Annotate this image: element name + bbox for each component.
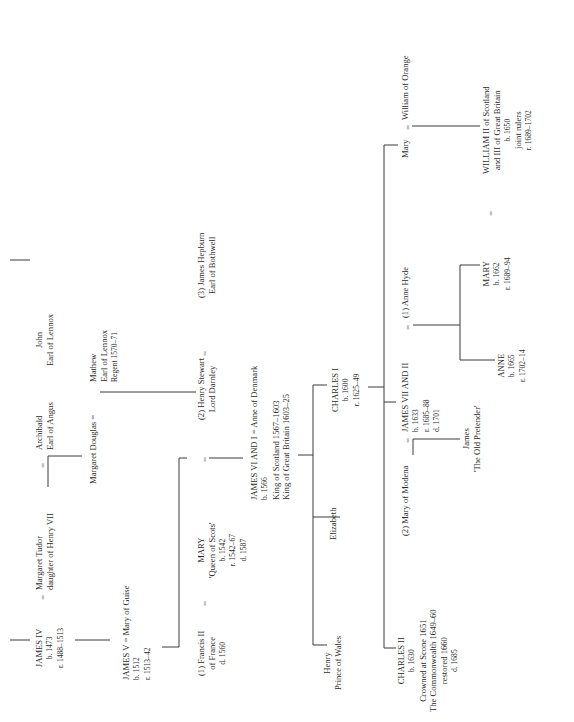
person-mary-princess: Mary <box>400 139 411 158</box>
title: Earl of Bothwell <box>207 233 218 298</box>
name: Elizabeth <box>328 508 339 540</box>
marriage-symbol: = <box>403 438 413 443</box>
person-elizabeth: Elizabeth <box>328 508 339 540</box>
person-margaret-tudor: Margaret Tudor daughter of Henry VII <box>34 513 56 590</box>
person-james-iv: JAMES IV b. 1473 r. 1488–1513 <box>34 628 66 668</box>
birth: b. 1650 <box>503 86 514 174</box>
marriage-symbol: = <box>403 325 413 330</box>
name: Mary <box>400 139 411 158</box>
person-james-vii-and-ii: JAMES VII AND II b. 1633 r. 1685–88 d. 1… <box>400 363 443 432</box>
marriage-symbol: = <box>200 457 210 462</box>
marriage-symbol: = <box>200 601 210 606</box>
birth: b. 1566 <box>260 366 271 500</box>
birth: b. 1542 <box>218 522 229 578</box>
reign: r. 1488–1513 <box>56 628 67 668</box>
reign: r. 1542–67 <box>228 522 239 578</box>
reign: r. 1689–1702 <box>524 86 535 174</box>
coronation: Crowned at Scone 1651 <box>418 609 429 712</box>
marriage-symbol: = <box>200 351 210 356</box>
name: CHARLES II <box>396 609 407 712</box>
death: d. 1685 <box>450 609 461 712</box>
person-john-lennox: John Earl of Lennox <box>34 314 56 366</box>
marriage-symbol: = <box>403 125 413 130</box>
person-james-hepburn: (3) James Hepburn Earl of Bothwell <box>196 233 218 298</box>
commonwealth: The Commonwealth 1649–60 <box>428 609 439 712</box>
death: d. 1587 <box>239 522 250 578</box>
person-henry-prince-of-wales: Henry Prince of Wales <box>322 636 344 690</box>
birth: b. 1473 <box>45 628 56 668</box>
name: Margaret Tudor <box>34 513 45 590</box>
death: d. 1560 <box>218 631 229 676</box>
person-archibald: Archibald Earl of Angus <box>34 402 56 450</box>
name: John <box>34 314 45 366</box>
person-mary-of-modena: (2) Mary of Modena <box>400 466 411 536</box>
name: James <box>461 405 472 472</box>
marriage-symbol: = <box>486 211 496 216</box>
reign-great-britain: King of Great Britain 1603–25 <box>281 366 292 500</box>
regency: Regent 1570–71 <box>110 330 121 382</box>
name: (2) Henry Stewart <box>196 358 207 420</box>
person-anne-hyde: (1) Anne Hyde <box>400 267 411 318</box>
restoration: restored 1660 <box>439 609 450 712</box>
person-mary-queen-of-scots: MARY 'Queen of Scots' b. 1542 r. 1542–67… <box>196 522 250 578</box>
person-william-of-orange: William of Orange <box>400 55 411 120</box>
note: joint rulers <box>513 86 524 174</box>
person-james-old-pretender: James 'The Old Pretender' <box>461 405 483 472</box>
person-william-iii: WILLIAM II of Scotland and III of Great … <box>481 86 535 174</box>
name: JAMES IV <box>34 628 45 668</box>
name: WILLIAM II of Scotland <box>481 86 492 174</box>
name: Henry <box>322 636 333 690</box>
title: Earl of Lennox <box>45 314 56 366</box>
reign: r. 1702–14 <box>518 350 529 383</box>
marriage-symbol: = <box>38 463 48 468</box>
title: Lord Darnley <box>207 358 218 420</box>
person-james-v: JAMES V = Mary of Guise b. 1512 r. 1513–… <box>121 585 153 680</box>
death: d. 1701 <box>432 363 443 432</box>
person-margaret-douglas: Margaret Douglas = <box>88 415 99 484</box>
name: (3) James Hepburn <box>196 233 207 298</box>
name: ANNE <box>496 350 507 383</box>
birth: b. 1633 <box>411 363 422 432</box>
title: Prince of Wales <box>333 636 344 690</box>
birth: b. 1665 <box>507 350 518 383</box>
epithet: 'Queen of Scots' <box>207 522 218 578</box>
name: MARY <box>196 522 207 578</box>
birth: b. 1512 <box>132 585 143 680</box>
name: Margaret Douglas = <box>88 415 99 484</box>
name: CHARLES I <box>330 368 341 412</box>
reign: r. 1689–94 <box>503 258 514 291</box>
name: Mathew <box>88 330 99 382</box>
person-francis-ii: (1) Francis II of France d. 1560 <box>196 631 228 676</box>
name: (2) Mary of Modena <box>400 466 411 536</box>
title: of France <box>207 631 218 676</box>
name: JAMES V = Mary of Guise <box>121 585 132 680</box>
birth: b. 1662 <box>492 258 503 291</box>
person-mathew-lennox: Mathew Earl of Lennox Regent 1570–71 <box>88 330 120 382</box>
epithet: 'The Old Pretender' <box>472 405 483 472</box>
name: JAMES VII AND II <box>400 363 411 432</box>
reign: r. 1685–88 <box>422 363 433 432</box>
person-charles-ii: CHARLES II b. 1630 Crowned at Scone 1651… <box>396 609 461 712</box>
person-mary-ii: MARY b. 1662 r. 1689–94 <box>481 258 513 291</box>
marriage-symbol: = <box>38 595 48 600</box>
title: Earl of Angus <box>45 402 56 450</box>
title: Earl of Lennox <box>99 330 110 382</box>
name: JAMES VI AND I = Anne of Denmark <box>249 366 260 500</box>
note: daughter of Henry VII <box>45 513 56 590</box>
person-anne: ANNE b. 1665 r. 1702–14 <box>496 350 528 383</box>
person-henry-darnley: (2) Henry Stewart Lord Darnley <box>196 358 218 420</box>
name: (1) Francis II <box>196 631 207 676</box>
reign-scotland: King of Scotland 1567–1603 <box>271 366 282 500</box>
name: MARY <box>481 258 492 291</box>
name: Archibald <box>34 402 45 450</box>
name: (1) Anne Hyde <box>400 267 411 318</box>
birth: b. 1600 <box>341 368 352 412</box>
reign: r. 1625–49 <box>352 368 363 412</box>
person-charles-i: CHARLES I b. 1600 r. 1625–49 <box>330 368 362 412</box>
reign: r. 1513–42 <box>143 585 154 680</box>
name: William of Orange <box>400 55 411 120</box>
title: and III of Great Britain <box>492 86 503 174</box>
birth: b. 1630 <box>407 609 418 712</box>
person-james-vi-and-i: JAMES VI AND I = Anne of Denmark b. 1566… <box>249 366 292 500</box>
